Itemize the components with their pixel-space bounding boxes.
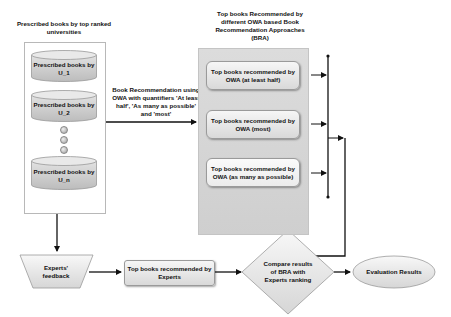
ellipsis-dot-icon	[60, 126, 68, 134]
experts-top-books-box: Top books recommended by Experts	[124, 260, 215, 286]
universities-title: Prescribed books by top ranked universit…	[14, 20, 114, 36]
university-label: Prescribed books by U_1	[31, 61, 97, 77]
university-label: Prescribed books by U_2	[31, 101, 97, 117]
bra-box-most: Top books recommended by OWA (most)	[206, 110, 300, 139]
university-db-u2: Prescribed books by U_2	[31, 90, 97, 122]
ellipsis-dot-icon	[60, 146, 68, 154]
recommendation-edge-label: Book Recommendation using OWA with quant…	[110, 86, 202, 118]
ellipsis-dot-icon	[60, 136, 68, 144]
bra-box-at-least-half: Top books recommended by OWA (at least h…	[206, 61, 300, 90]
compare-decision: Compare results of BRA with Experts rank…	[262, 250, 314, 294]
bra-title: Top books Recommended by different OWA b…	[206, 10, 314, 42]
evaluation-results: Evaluation Results	[353, 262, 435, 282]
university-db-un: Prescribed books by U_n	[31, 156, 97, 190]
bra-box-as-many-as-possible: Top books recommended by OWA (as many as…	[206, 158, 300, 187]
university-label: Prescribed books by U_n	[31, 168, 97, 184]
university-db-u1: Prescribed books by U_1	[31, 50, 97, 82]
experts-feedback: Experts' feedback	[30, 258, 82, 286]
